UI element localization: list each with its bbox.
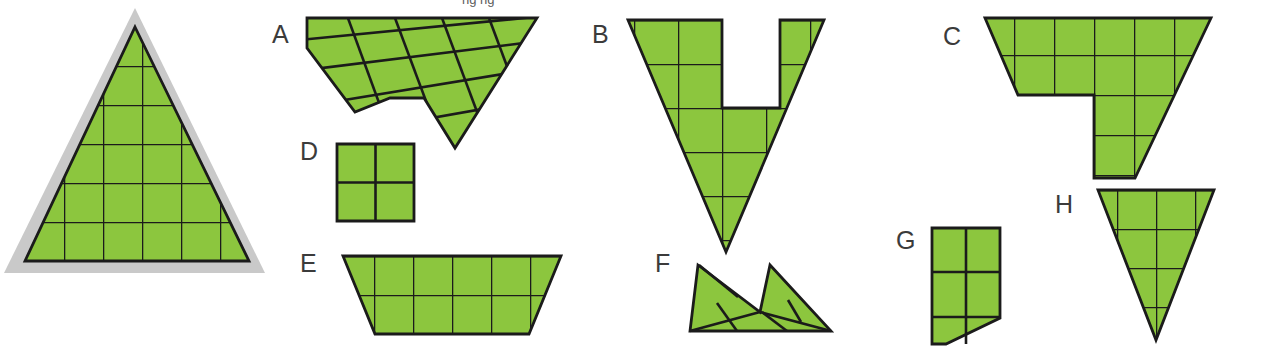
shape-a-fill <box>307 18 537 148</box>
shape-c[interactable] <box>970 10 1230 200</box>
label-b: B <box>592 20 609 48</box>
cropped-header-text: ng ng <box>462 0 495 7</box>
label-a: A <box>272 20 289 48</box>
shape-h[interactable] <box>1090 185 1230 345</box>
shape-b[interactable] <box>600 10 860 270</box>
shape-e[interactable] <box>330 250 580 350</box>
figure-root: ng ng <box>0 0 1262 360</box>
shape-c-grid <box>970 10 1230 200</box>
shape-d[interactable] <box>337 144 414 221</box>
label-g: G <box>896 226 915 254</box>
label-f: F <box>655 249 670 277</box>
label-e: E <box>300 249 317 277</box>
reference-triangle-grid <box>20 20 260 270</box>
reference-triangle[interactable] <box>4 8 265 273</box>
shape-h-grid <box>1090 185 1230 345</box>
shape-g[interactable] <box>932 228 1000 344</box>
shapes-figure-canvas: ng ng <box>0 0 1262 360</box>
label-h: H <box>1055 190 1073 218</box>
label-c: C <box>943 22 961 50</box>
label-d: D <box>300 137 318 165</box>
shape-a[interactable] <box>300 10 589 160</box>
shape-f[interactable] <box>690 265 831 331</box>
